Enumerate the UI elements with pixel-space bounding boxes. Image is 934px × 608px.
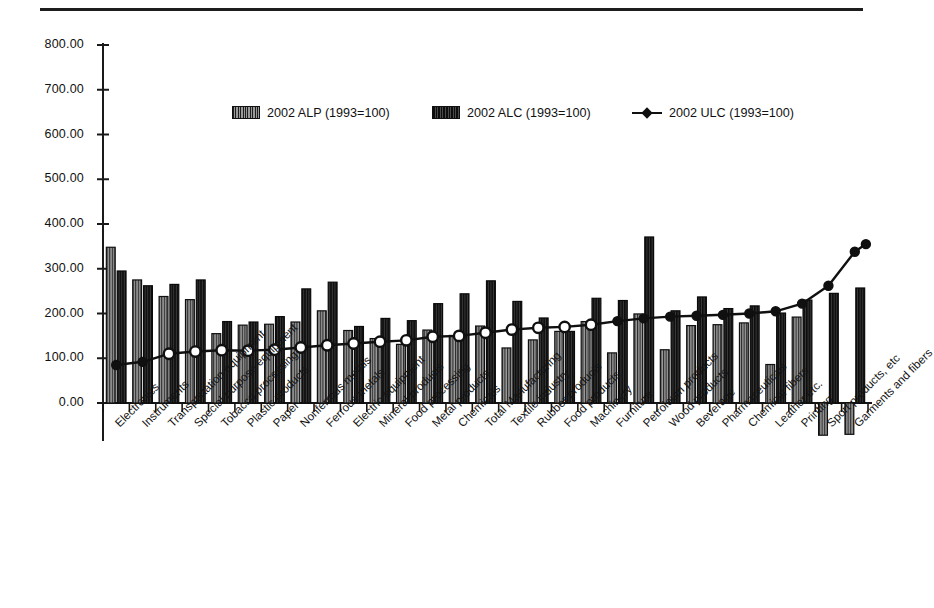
- ulc-marker-25: [771, 307, 780, 316]
- ulc-marker-2: [164, 349, 174, 359]
- ulc-marker-4: [217, 345, 227, 355]
- ulc-marker-11: [401, 335, 411, 345]
- ulc-marker-17: [559, 322, 569, 332]
- bar-alp-1: [133, 280, 142, 403]
- bar-alc-27: [829, 293, 838, 403]
- ulc-marker-3: [190, 346, 200, 356]
- ulc-marker-28: [850, 247, 859, 256]
- ulc-marker-15: [507, 324, 517, 334]
- ulc-marker-7: [296, 342, 306, 352]
- bar-alp-0: [106, 247, 115, 403]
- bar-alc-0: [117, 271, 126, 403]
- ulc-marker-14: [480, 328, 490, 338]
- ulc-marker-24: [745, 309, 754, 318]
- ulc-marker-20: [639, 314, 648, 323]
- bar-alp-8: [317, 311, 326, 403]
- ulc-marker-10: [375, 336, 385, 346]
- ulc-marker-9: [348, 338, 358, 348]
- ulc-marker-13: [454, 331, 464, 341]
- ulc-marker-26: [798, 299, 807, 308]
- ulc-marker-23: [719, 310, 728, 319]
- ulc-marker-16: [533, 323, 543, 333]
- ulc-marker-27: [824, 281, 833, 290]
- ulc-marker-21: [666, 312, 675, 321]
- ulc-marker-19: [613, 317, 622, 326]
- ulc-marker-1: [138, 357, 147, 366]
- ulc-marker-18: [586, 319, 596, 329]
- ulc-marker-12: [428, 332, 438, 342]
- bar-alp-26: [792, 317, 801, 403]
- ulc-marker-8: [322, 340, 332, 350]
- ulc-marker-29: [861, 240, 870, 249]
- ulc-marker-22: [692, 311, 701, 320]
- ulc-marker-0: [112, 361, 121, 370]
